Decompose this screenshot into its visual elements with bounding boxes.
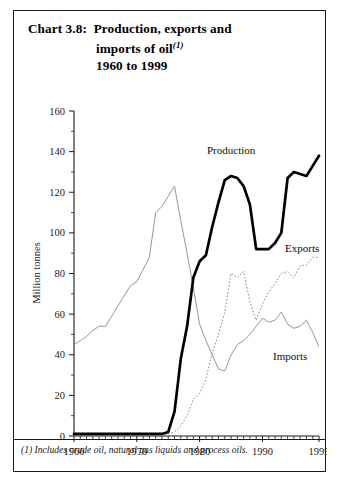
y-tick-label: 100: [49, 227, 65, 238]
y-axis-ticks: [69, 111, 74, 436]
plot-area: 020406080100120140160 196019701980199019…: [14, 11, 327, 473]
y-tick-label: 160: [49, 106, 65, 117]
footnote-text: (1) Includes crude oil, natural gas liqu…: [21, 444, 321, 455]
series-label-production: Production: [207, 144, 256, 156]
y-axis-tick-labels: 020406080100120140160: [49, 106, 65, 442]
y-tick-label: 120: [49, 187, 65, 198]
chart-container: Chart 3.8: Production, exports and impor…: [13, 10, 326, 472]
data-series: [74, 156, 319, 436]
y-tick-label: 40: [55, 349, 66, 360]
y-tick-label: 80: [55, 268, 66, 279]
series-label-exports: Exports: [285, 242, 319, 254]
chart-svg: 020406080100120140160 196019701980199019…: [14, 11, 327, 473]
y-tick-label: 20: [55, 390, 66, 401]
series-label-imports: Imports: [273, 350, 307, 362]
y-tick-label: 60: [55, 309, 66, 320]
series-line-production: [74, 156, 319, 434]
footnote-divider: [14, 439, 325, 440]
y-tick-label: 140: [49, 146, 65, 157]
y-axis-title: Million tonnes: [31, 242, 42, 304]
series-line-exports: [74, 257, 319, 436]
